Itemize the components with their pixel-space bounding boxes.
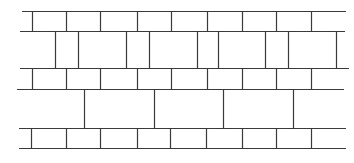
coursing-diagram: [0, 0, 354, 163]
